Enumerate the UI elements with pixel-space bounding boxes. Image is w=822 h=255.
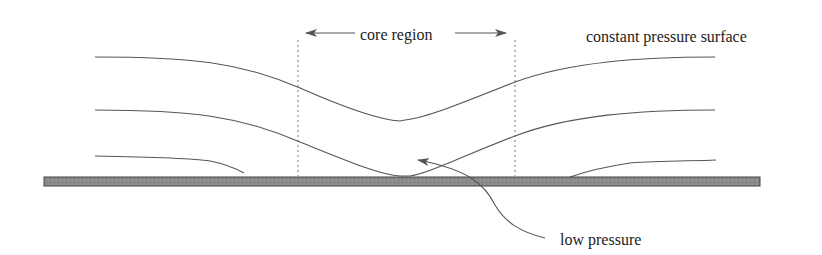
core-region-label: core region xyxy=(360,27,432,43)
upper-pressure-surface xyxy=(95,57,715,121)
lower-pressure-surface-left xyxy=(95,156,244,173)
lower-pressure-surface-right xyxy=(570,160,716,177)
low-pressure-pointer xyxy=(418,160,545,238)
ground-surface xyxy=(44,177,760,186)
low-pressure-label: low pressure xyxy=(560,232,641,248)
constant-pressure-surface-label: constant pressure surface xyxy=(586,29,747,45)
diagram-canvas: core region constant pressure surface lo… xyxy=(0,0,822,255)
